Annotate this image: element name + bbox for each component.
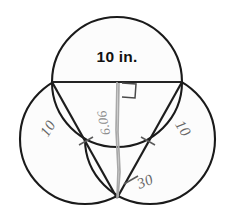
- chord-length-label: 10 in.: [97, 48, 138, 65]
- figure-canvas: 10 in. 6.06 10 10 30: [0, 0, 226, 221]
- geometry-figure: 10 in. 6.06 10 10 30: [0, 0, 226, 221]
